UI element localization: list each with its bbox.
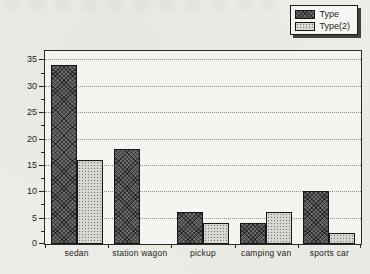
gridline-35 bbox=[45, 59, 361, 60]
y-tick-30 bbox=[39, 86, 45, 87]
y-tick-label-5: 5 bbox=[17, 214, 37, 223]
x-tick-2 bbox=[171, 244, 172, 248]
legend-item-type2: Type(2) bbox=[295, 21, 350, 31]
y-minor-tick-32.5 bbox=[41, 73, 45, 74]
x-tick-3 bbox=[235, 244, 236, 248]
category-label-station-wagon: station wagon bbox=[108, 249, 171, 258]
legend-item-type: Type bbox=[295, 9, 350, 19]
bar-sports-car-type-2 bbox=[329, 233, 355, 244]
category-label-camping-van: camping van bbox=[235, 249, 298, 258]
gridline-20 bbox=[45, 139, 361, 140]
scanned-bar-chart: Type Type(2) Frequency 05101520253035sed… bbox=[0, 0, 370, 274]
legend-label-type: Type bbox=[319, 9, 339, 19]
bar-sedan-type bbox=[51, 65, 77, 244]
bar-sports-car-type bbox=[303, 191, 329, 244]
y-tick-25 bbox=[39, 112, 45, 113]
y-tick-35 bbox=[39, 59, 45, 60]
y-tick-label-0: 0 bbox=[17, 239, 37, 248]
y-tick-10 bbox=[39, 191, 45, 192]
y-tick-20 bbox=[39, 139, 45, 140]
bar-station-wagon-type bbox=[114, 149, 140, 244]
y-minor-tick-2.5 bbox=[41, 231, 45, 232]
category-label-pickup: pickup bbox=[171, 249, 234, 258]
y-minor-tick-27.5 bbox=[41, 99, 45, 100]
legend-label-type2: Type(2) bbox=[319, 21, 350, 31]
y-tick-label-20: 20 bbox=[17, 135, 37, 144]
gridline-30 bbox=[45, 86, 361, 87]
y-tick-5 bbox=[39, 218, 45, 219]
y-minor-tick-7.5 bbox=[41, 204, 45, 205]
y-minor-tick-12.5 bbox=[41, 178, 45, 179]
bar-pickup-type-2 bbox=[203, 223, 229, 244]
x-tick-1 bbox=[108, 244, 109, 248]
y-tick-label-10: 10 bbox=[17, 187, 37, 196]
y-tick-label-15: 15 bbox=[17, 161, 37, 170]
bar-camping-van-type-2 bbox=[266, 212, 292, 244]
y-tick-15 bbox=[39, 165, 45, 166]
x-tick-5 bbox=[360, 244, 361, 248]
y-minor-tick-17.5 bbox=[41, 152, 45, 153]
plot-area: Frequency 05101520253035sedanstation wag… bbox=[44, 50, 362, 245]
gridline-25 bbox=[45, 112, 361, 113]
y-tick-label-35: 35 bbox=[17, 55, 37, 64]
chart-legend: Type Type(2) bbox=[290, 5, 358, 35]
bar-sedan-type-2 bbox=[77, 160, 103, 244]
bar-camping-van-type bbox=[240, 223, 266, 244]
y-tick-label-25: 25 bbox=[17, 108, 37, 117]
scan-bleed-artifact bbox=[4, 0, 274, 10]
legend-swatch-type2 bbox=[295, 22, 315, 31]
bar-pickup-type bbox=[177, 212, 203, 244]
category-label-sports-car: sports car bbox=[298, 249, 361, 258]
y-tick-label-30: 30 bbox=[17, 82, 37, 91]
legend-swatch-type bbox=[295, 10, 315, 19]
y-minor-tick-22.5 bbox=[41, 125, 45, 126]
category-label-sedan: sedan bbox=[45, 249, 108, 258]
x-tick-0 bbox=[45, 244, 46, 248]
x-tick-4 bbox=[298, 244, 299, 248]
